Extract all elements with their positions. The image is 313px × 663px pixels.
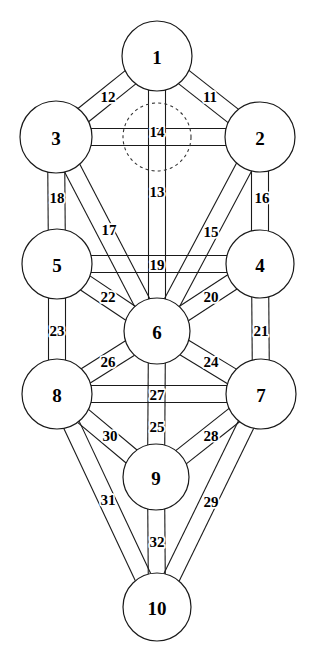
tree-of-life-canvas: 12345678910 1112131415161718192021222324…	[0, 0, 313, 663]
path-label-18: 18	[50, 190, 65, 206]
sephira-label-7: 7	[256, 385, 266, 406]
path-label-15: 15	[204, 224, 219, 240]
path-label-16: 16	[255, 190, 271, 206]
sephira-label-8: 8	[52, 385, 62, 406]
path-label-20: 20	[204, 289, 219, 305]
path-label-17: 17	[102, 222, 118, 238]
path-label-13: 13	[150, 184, 165, 200]
path-label-14: 14	[150, 124, 166, 140]
sephira-label-4: 4	[255, 255, 265, 276]
sephira-label-6: 6	[152, 322, 162, 343]
path-label-26: 26	[101, 354, 117, 370]
path-label-23: 23	[50, 323, 65, 339]
path-label-12: 12	[101, 89, 116, 105]
path-label-28: 28	[204, 428, 219, 444]
path-label-19: 19	[150, 257, 165, 273]
tree-of-life-diagram: 12345678910 1112131415161718192021222324…	[0, 0, 313, 663]
path-label-22: 22	[101, 289, 116, 305]
path-label-24: 24	[204, 354, 220, 370]
path-label-21: 21	[254, 323, 269, 339]
sephira-label-2: 2	[255, 128, 265, 149]
sephira-label-10: 10	[148, 598, 167, 619]
path-label-27: 27	[150, 387, 166, 403]
sephira-label-9: 9	[151, 468, 161, 489]
path-label-32: 32	[150, 534, 165, 550]
path-label-29: 29	[204, 494, 219, 510]
path-label-25: 25	[150, 419, 165, 435]
path-label-31: 31	[101, 492, 116, 508]
path-label-11: 11	[203, 89, 217, 105]
path-label-30: 30	[103, 428, 118, 444]
sephira-label-5: 5	[52, 255, 62, 276]
sephira-label-1: 1	[152, 47, 162, 68]
sephira-label-3: 3	[51, 128, 61, 149]
